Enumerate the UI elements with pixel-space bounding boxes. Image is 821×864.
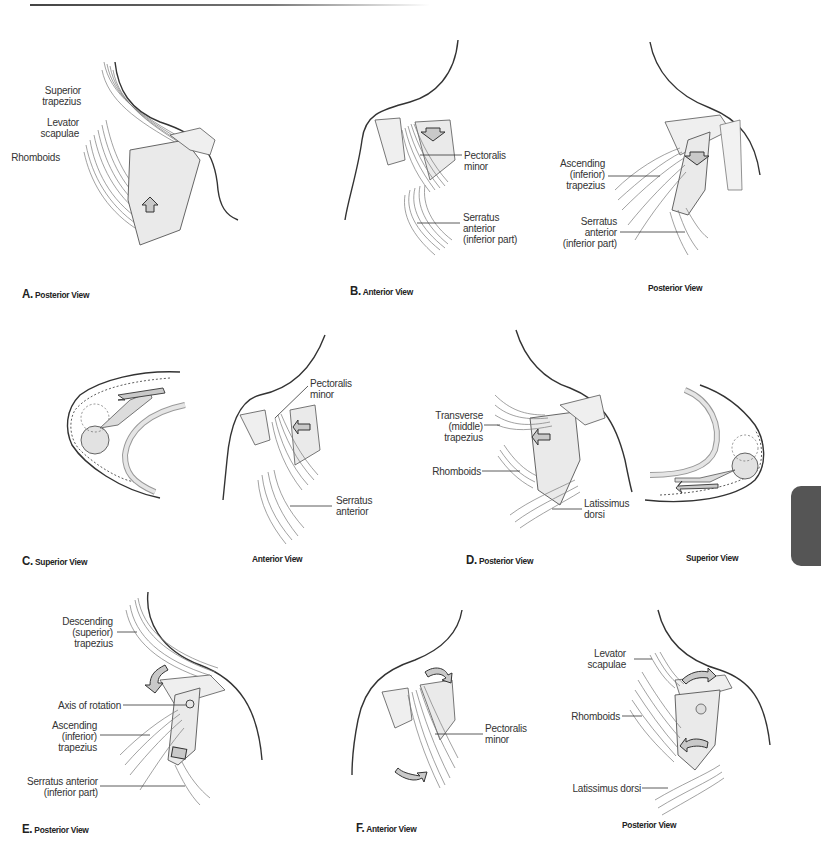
arrow-rotation-icon: [395, 768, 427, 782]
scapula-bone: [128, 140, 200, 245]
rhomboids-muscle: [498, 445, 537, 488]
humerus-bone: [240, 410, 270, 445]
panel-c: C. Superior View: [0, 300, 200, 570]
axis-of-rotation-marker: [186, 700, 194, 708]
shoulder-superior-illustration: [640, 300, 790, 570]
arrow-rotation-icon: [145, 665, 168, 693]
axis-of-rotation-marker: [696, 704, 706, 714]
label-levator-scapulae: Levatorscapulae: [588, 648, 626, 670]
humeral-head-bone: [732, 453, 758, 479]
panel-d-superior: Superior View: [640, 300, 790, 570]
shoulder-superior-illustration: [0, 300, 200, 570]
serratus-anterior-muscle: [258, 470, 304, 544]
latissimus-dorsi-muscle: [655, 765, 724, 815]
serratus-anterior-muscle: [404, 185, 452, 255]
label-superior-trapezius: Superiortrapezius: [42, 85, 81, 107]
serratus-anterior-muscle: [670, 208, 708, 255]
shoulder-anterior-illustration: [300, 580, 560, 864]
humeral-head-bone: [81, 426, 109, 454]
shoulder-anterior-illustration: [200, 300, 400, 570]
label-axis-of-rotation: Axis of rotation: [58, 700, 121, 711]
caption-panel-b: B. Anterior View: [350, 283, 413, 298]
arrow-rotation-icon: [425, 668, 452, 683]
label-ascending-trapezius: Ascending(inferior)trapezius: [560, 158, 605, 191]
label-descending-trapezius: Descending(superior)trapezius: [62, 616, 113, 649]
label-latissimus-dorsi: Latissimus dorsi: [573, 783, 642, 794]
label-serratus-anterior: Serratus anterior(inferior part): [463, 212, 530, 245]
scapula-bone: [530, 412, 580, 505]
rhomboids-muscle: [630, 672, 681, 762]
panel-a: Superiortrapezius Levatorscapulae Rhombo…: [0, 0, 260, 300]
humerus-bone: [375, 118, 405, 165]
caption-panel-b-posterior: Posterior View: [648, 282, 702, 293]
caption-panel-c-anterior: Anterior View: [252, 553, 302, 564]
scapula-bone: [290, 405, 320, 465]
label-rhomboids: Rhomboids: [571, 711, 620, 722]
caption-panel-f-posterior: Posterior View: [622, 819, 676, 830]
label-transverse-trapezius: Transverse(middle)trapezius: [435, 410, 483, 443]
label-serratus-anterior: Serratusanterior: [336, 495, 372, 517]
panel-f: Pectoralisminor F. Anterior View: [300, 580, 560, 864]
caption-panel-c: C. Superior View: [22, 553, 87, 568]
panel-b-posterior: Ascending(inferior)trapezius Serratusant…: [560, 40, 813, 300]
arrow-rotation-icon: [171, 747, 187, 759]
label-pectoralis-minor: Pectoralisminor: [310, 378, 352, 400]
shoulder-posterior-illustration: [0, 0, 260, 300]
caption-panel-d-superior: Superior View: [686, 552, 738, 563]
label-pectoralis-minor: Pectoralisminor: [485, 723, 527, 745]
panel-b: Pectoralis minor Serratus anterior(infer…: [270, 40, 530, 300]
caption-panel-d: D. Posterior View: [466, 552, 533, 567]
label-pectoralis-minor: Pectoralis minor: [464, 150, 530, 172]
caption-panel-a: A. Posterior View: [22, 286, 89, 301]
humerus-bone: [382, 688, 412, 728]
label-latissimus-dorsi: Latissimusdorsi: [584, 498, 629, 520]
caption-panel-f: F. Anterior View: [356, 820, 416, 835]
descending-trapezius-muscle: [126, 598, 218, 680]
panel-f-posterior: Levatorscapulae Rhomboids Latissimus dor…: [560, 580, 813, 864]
label-serratus-anterior: Serratusanterior(inferior part): [563, 216, 617, 249]
scapula-bone: [675, 690, 720, 770]
panel-c-anterior: Pectoralisminor Serratusanterior Anterio…: [200, 300, 400, 570]
label-rhomboids: Rhomboids: [11, 152, 60, 163]
shoulder-posterior-illustration: [560, 580, 813, 864]
caption-panel-e: E. Posterior View: [22, 821, 89, 836]
label-serratus-anterior: Serratus anterior(inferior part): [27, 776, 98, 798]
chapter-thumb-tab: [791, 486, 821, 566]
label-ascending-trapezius: Ascending(inferior)trapezius: [52, 720, 97, 753]
serratus-anterior-muscle: [175, 762, 210, 805]
label-levator-scapulae: Levatorscapulae: [41, 117, 79, 139]
panel-d: Transverse(middle)trapezius Rhomboids La…: [400, 300, 640, 570]
panel-e: Descending(superior)trapezius Axis of ro…: [0, 580, 300, 864]
label-rhomboids: Rhomboids: [432, 466, 481, 477]
